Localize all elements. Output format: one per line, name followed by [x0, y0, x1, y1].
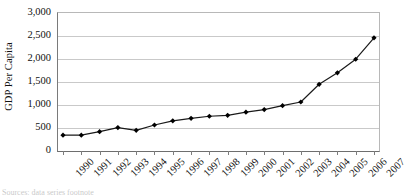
- data-point-marker: [280, 103, 285, 108]
- y-tick-label: 1,500: [27, 76, 51, 86]
- x-tick-label: 2002: [293, 156, 316, 179]
- x-tick-label: 1990: [73, 156, 96, 179]
- data-point-marker: [225, 113, 230, 118]
- x-tick-label: 2006: [366, 156, 389, 179]
- plot-area: [57, 12, 380, 152]
- data-point-marker: [152, 122, 157, 127]
- data-point-marker: [115, 125, 120, 130]
- data-point-marker: [170, 118, 175, 123]
- data-point-marker: [97, 129, 102, 134]
- y-tick-label: 1,000: [27, 99, 51, 109]
- x-tick-label: 1994: [146, 156, 169, 179]
- data-point-marker: [79, 133, 84, 138]
- series-line: [63, 38, 374, 135]
- x-tick-label: 1992: [110, 156, 133, 179]
- x-tick-label: 1995: [165, 156, 188, 179]
- data-point-marker: [262, 107, 267, 112]
- x-tick-label: 1999: [238, 156, 261, 179]
- x-tick-label: 2004: [329, 156, 352, 179]
- y-axis-title-label: GDP Per Capita: [3, 42, 14, 111]
- x-tick-label: 1998: [219, 156, 242, 179]
- data-point-marker: [188, 116, 193, 121]
- x-tick-label: 2001: [274, 156, 297, 179]
- x-tick-label: 1996: [183, 156, 206, 179]
- x-tick-label: 2005: [348, 156, 371, 179]
- data-point-marker: [243, 110, 248, 115]
- x-tick-label: 1993: [128, 156, 151, 179]
- scan-artifact-text: Sources: data series footnote: [2, 189, 192, 196]
- x-tick-label: 2000: [256, 156, 279, 179]
- x-tick-label: 2007: [384, 156, 407, 179]
- data-point-marker: [60, 133, 65, 138]
- data-point-marker: [207, 114, 212, 119]
- data-point-marker: [134, 128, 139, 133]
- y-tick-label: 2,000: [27, 53, 51, 63]
- x-tick-label: 1991: [91, 156, 114, 179]
- y-tick-label: 500: [35, 122, 51, 132]
- y-tick-label: 3,000: [27, 7, 51, 17]
- y-axis-tick-labels: 3,0002,5002,0001,5001,0005000: [14, 0, 54, 160]
- series-gdp-per-capita: [58, 13, 379, 151]
- y-tick-label: 2,500: [27, 30, 51, 40]
- x-tick-label: 1997: [201, 156, 224, 179]
- x-tick-label: 2003: [311, 156, 334, 179]
